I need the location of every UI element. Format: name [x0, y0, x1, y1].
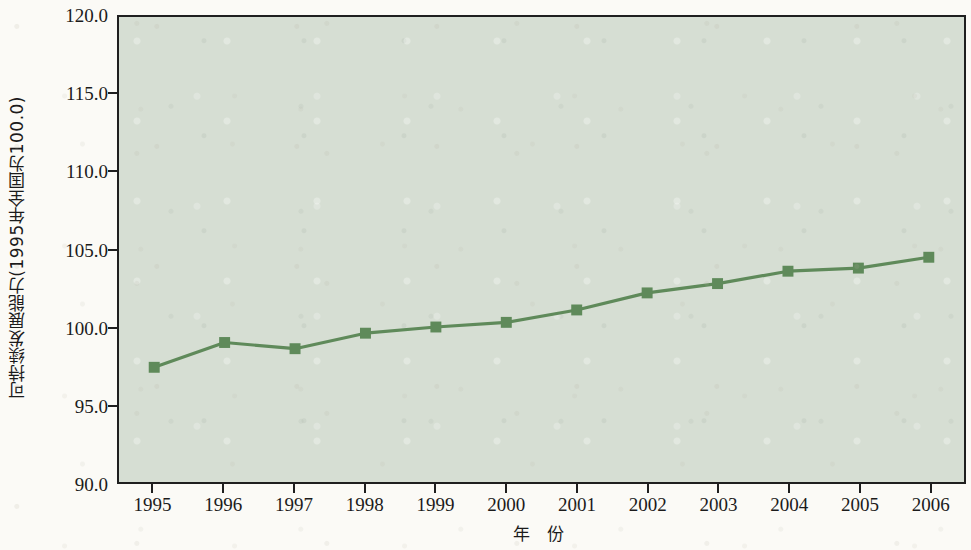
- x-axis-tick-label: 1995: [117, 494, 187, 516]
- x-axis-tick-label: 2006: [896, 494, 966, 516]
- x-axis-tick-label: 1999: [400, 494, 470, 516]
- y-axis-tick-mark: [108, 170, 117, 172]
- y-axis-tick-mark: [108, 92, 117, 94]
- x-axis-title: 年 份: [117, 520, 966, 545]
- y-axis-tick-label: 100.0: [34, 318, 108, 337]
- x-axis-tick-mark: [788, 484, 790, 493]
- x-axis-tick-label: 2004: [754, 494, 824, 516]
- x-axis-tick-mark: [505, 484, 507, 493]
- y-axis-tick-labels: 120.0115.0110.0105.0100.095.090.0: [28, 0, 108, 550]
- y-axis-tick-mark: [108, 327, 117, 329]
- data-point-marker: [642, 287, 653, 298]
- y-axis-tick-label: 90.0: [34, 475, 108, 494]
- x-axis-tick-mark: [930, 484, 932, 493]
- x-axis-tick-label: 2001: [542, 494, 612, 516]
- data-point-marker: [712, 278, 723, 289]
- data-point-marker: [290, 343, 301, 354]
- series-line: [154, 257, 929, 367]
- x-axis-tick-mark: [859, 484, 861, 493]
- y-axis-tick-label: 95.0: [34, 396, 108, 415]
- data-point-marker: [360, 328, 371, 339]
- line-chart-figure: 可持续发展能力(1995年全国为100.0) 120.0115.0110.010…: [0, 0, 971, 550]
- y-axis-tick-mark: [108, 405, 117, 407]
- x-axis-tick-label: 1997: [259, 494, 329, 516]
- y-axis-title: 可持续发展能力(1995年全国为100.0): [2, 0, 30, 495]
- y-axis-tick-mark: [108, 249, 117, 251]
- x-axis-tick-label: 2005: [825, 494, 895, 516]
- x-axis-tick-mark: [364, 484, 366, 493]
- x-axis-tick-label: 1996: [188, 494, 258, 516]
- x-axis-tick-mark: [576, 484, 578, 493]
- data-point-marker: [501, 317, 512, 328]
- data-point-marker: [853, 263, 864, 274]
- data-series-layer: [119, 17, 964, 482]
- x-axis-tick-mark: [151, 484, 153, 493]
- x-axis-tick-mark: [293, 484, 295, 493]
- y-axis-tick-label: 110.0: [34, 162, 108, 181]
- data-point-marker: [923, 252, 934, 263]
- x-axis-tick-label: 1998: [330, 494, 400, 516]
- data-point-marker: [149, 362, 160, 373]
- x-axis-tick-mark: [717, 484, 719, 493]
- data-point-marker: [571, 304, 582, 315]
- plot-area: [117, 15, 966, 484]
- x-axis-tick-label: 2003: [683, 494, 753, 516]
- data-point-marker: [782, 266, 793, 277]
- x-axis-tick-mark: [222, 484, 224, 493]
- y-axis-tick-label: 115.0: [34, 84, 108, 103]
- x-axis-tick-mark: [434, 484, 436, 493]
- data-point-marker: [219, 337, 230, 348]
- x-axis-tick-mark: [647, 484, 649, 493]
- y-axis-title-text: 可持续发展能力(1995年全国为100.0): [4, 96, 29, 399]
- y-axis-tick-label: 105.0: [34, 240, 108, 259]
- y-axis-tick-label: 120.0: [34, 6, 108, 25]
- x-axis-tick-label: 2002: [613, 494, 683, 516]
- x-axis-tick-label: 2000: [471, 494, 541, 516]
- data-point-marker: [430, 322, 441, 333]
